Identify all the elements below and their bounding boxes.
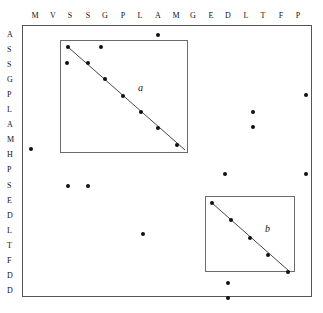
y-axis-label: L [7, 226, 17, 236]
x-axis-label: P [117, 11, 129, 21]
data-point [304, 93, 308, 97]
data-point [223, 172, 227, 176]
y-axis-label: G [7, 75, 17, 85]
data-point [99, 45, 103, 49]
x-axis-label: M [29, 11, 41, 21]
data-point [266, 253, 270, 257]
y-axis-label: A [7, 120, 17, 130]
data-point [121, 94, 125, 98]
y-axis-label: D [7, 271, 17, 281]
data-point [251, 110, 255, 114]
y-axis-label: A [7, 30, 17, 40]
data-point [210, 201, 214, 205]
x-axis-label: T [257, 11, 269, 21]
x-axis-label: E [205, 11, 217, 21]
x-axis-label: L [240, 11, 252, 21]
data-point [251, 125, 255, 129]
y-axis-label: D [7, 211, 17, 221]
x-axis-label: G [99, 11, 111, 21]
data-point [66, 45, 70, 49]
y-axis-label: H [7, 150, 17, 160]
y-axis-label: P [7, 165, 17, 175]
data-point [156, 33, 160, 37]
data-point [175, 143, 179, 147]
data-point [286, 270, 290, 274]
data-point [103, 77, 107, 81]
x-axis-label: S [64, 11, 76, 21]
y-axis-label: E [7, 196, 17, 206]
region-label-b: b [265, 223, 270, 234]
data-point [66, 184, 70, 188]
data-point [29, 147, 33, 151]
data-point [229, 218, 233, 222]
data-point [248, 236, 252, 240]
y-axis-label: F [7, 256, 17, 266]
y-axis-label: T [7, 241, 17, 251]
x-axis-label: L [134, 11, 146, 21]
data-point [139, 110, 143, 114]
data-point [226, 296, 230, 300]
y-axis-label: D [7, 286, 17, 296]
data-point [141, 232, 145, 236]
y-axis-label: S [7, 45, 17, 55]
region-label-a: a [138, 82, 143, 93]
data-point [86, 61, 90, 65]
y-axis-label: P [7, 90, 17, 100]
y-axis-label: L [7, 105, 17, 115]
x-axis-label: M [170, 11, 182, 21]
x-axis-label: D [222, 11, 234, 21]
x-axis-label: G [187, 11, 199, 21]
y-axis-label: S [7, 60, 17, 70]
data-point [156, 126, 160, 130]
data-point [226, 281, 230, 285]
x-axis-label: V [47, 11, 59, 21]
region-box-b [205, 196, 295, 272]
x-axis-label: F [275, 11, 287, 21]
x-axis-label: P [292, 11, 304, 21]
y-axis-label: M [7, 135, 17, 145]
data-point [65, 61, 69, 65]
data-point [86, 184, 90, 188]
x-axis-label: A [152, 11, 164, 21]
y-axis-label: S [7, 181, 17, 191]
data-point [304, 172, 308, 176]
dot-matrix-figure: MVSSGPLAMGEDLTFP ASSGPLAMHPSEDLTFDD ab [0, 0, 323, 313]
x-axis-label: S [82, 11, 94, 21]
